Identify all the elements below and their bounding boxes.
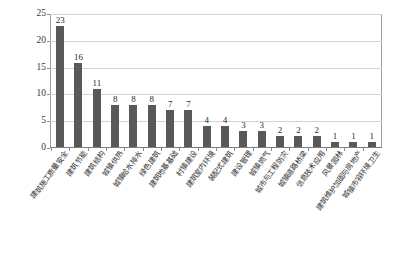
bar-slot: 2: [308, 15, 326, 147]
y-axis-tick-mark: [47, 148, 50, 149]
bar-slot: 7: [161, 15, 179, 147]
bar[interactable]: 23: [56, 26, 64, 147]
bar-value-label: 8: [113, 95, 118, 104]
bar[interactable]: 2: [313, 136, 321, 147]
bar-slot: 3: [234, 15, 252, 147]
bar-slot: 23: [51, 15, 69, 147]
bar-value-label: 8: [131, 95, 136, 104]
y-axis-tick-mark: [47, 121, 50, 122]
bar[interactable]: 7: [184, 110, 192, 147]
bar-value-label: 3: [260, 121, 265, 130]
plot-wrapper: 231611888774433222111: [50, 14, 382, 148]
bar[interactable]: 8: [111, 105, 119, 147]
bar[interactable]: 2: [294, 136, 302, 147]
y-axis-tick-label: 20: [12, 36, 46, 46]
bar-slot: 7: [179, 15, 197, 147]
bar-value-label: 2: [296, 126, 301, 135]
bar-slot: 11: [88, 15, 106, 147]
bar-slot: 4: [216, 15, 234, 147]
y-axis-tick-mark: [47, 68, 50, 69]
bar-value-label: 1: [369, 132, 374, 141]
bar-value-label: 2: [315, 126, 320, 135]
y-axis-tick-label: 5: [12, 116, 46, 126]
bar-value-label: 1: [351, 132, 356, 141]
y-axis-tick-mark: [47, 14, 50, 15]
bar-value-label: 23: [56, 16, 65, 25]
bar[interactable]: 3: [258, 131, 266, 147]
bar-slot: 2: [289, 15, 307, 147]
bar-value-label: 7: [168, 100, 173, 109]
bar-slot: 3: [253, 15, 271, 147]
bar-slot: 4: [198, 15, 216, 147]
bar-value-label: 4: [205, 116, 210, 125]
y-axis-tick-label: 10: [12, 90, 46, 100]
bar-value-label: 16: [74, 53, 83, 62]
bar[interactable]: 3: [239, 131, 247, 147]
bar[interactable]: 4: [221, 126, 229, 147]
bar-slot: 1: [344, 15, 362, 147]
bar[interactable]: 8: [129, 105, 137, 147]
bar-value-label: 1: [333, 132, 338, 141]
bar-slot: 8: [106, 15, 124, 147]
bar-slot: 16: [69, 15, 87, 147]
y-axis-tick-label: 0: [12, 143, 46, 153]
bar-value-label: 4: [223, 116, 228, 125]
y-axis-tick-label: 15: [12, 63, 46, 73]
bar[interactable]: 4: [203, 126, 211, 147]
bar-value-label: 8: [150, 95, 155, 104]
x-axis-labels: 建筑施工质量安全建筑节能建筑结构城镇供热城镇给水排水绿色建筑建筑地基基础村镇建设…: [50, 150, 382, 250]
y-axis-tick-mark: [47, 94, 50, 95]
bar-value-label: 11: [92, 79, 101, 88]
bar[interactable]: 8: [148, 105, 156, 147]
bar-value-label: 2: [278, 126, 283, 135]
bar[interactable]: 2: [276, 136, 284, 147]
bar-slot: 8: [143, 15, 161, 147]
bar-chart: 231611888774433222111 0510152025 建筑施工质量安…: [0, 0, 402, 254]
bar-slot: 2: [271, 15, 289, 147]
x-axis-line: [50, 147, 382, 148]
bar-slot: 1: [363, 15, 381, 147]
bar[interactable]: 16: [74, 63, 82, 147]
x-axis-tick-label: 建筑施工质量安全: [30, 150, 70, 201]
bar-series: 231611888774433222111: [51, 15, 381, 147]
y-axis-tick-mark: [47, 41, 50, 42]
bar-slot: 8: [124, 15, 142, 147]
bar-value-label: 3: [241, 121, 246, 130]
bar-value-label: 7: [186, 100, 191, 109]
bar[interactable]: 7: [166, 110, 174, 147]
bar[interactable]: 11: [93, 89, 101, 147]
bar-slot: 1: [326, 15, 344, 147]
y-axis-tick-label: 25: [12, 9, 46, 19]
